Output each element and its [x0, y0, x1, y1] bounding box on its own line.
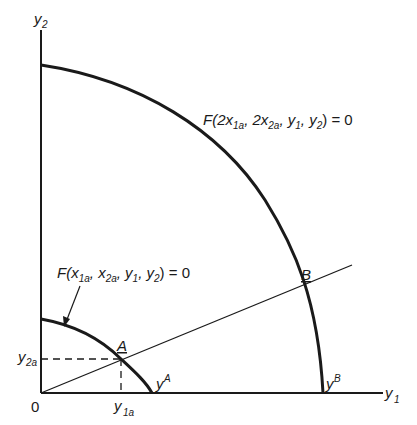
- outer-curve-equation: F(2x1a, 2x2a, y1, y2) = 0: [203, 111, 353, 131]
- origin-label: 0: [31, 398, 39, 415]
- y1a-label-sub: 1a: [123, 407, 135, 418]
- svg-text:F(x1a, x2a, y1, y2) = 0: F(x1a, x2a, y1, y2) = 0: [57, 264, 190, 284]
- ray-from-origin: [41, 265, 352, 393]
- x-axis-label-sub: 1: [394, 394, 400, 405]
- yA-intercept-sup: A: [163, 373, 171, 384]
- production-possibility-diagram: y 2 y 1 0 y 2a y 1a A B y A y B F(2x1a, …: [0, 0, 417, 425]
- inner-curve-equation: F(x1a, x2a, y1, y2) = 0: [57, 264, 190, 284]
- x-axis-label: y: [384, 384, 394, 401]
- svg-text:F(2x1a, 2x2a, y1, y2) = 0: F(2x1a, 2x2a, y1, y2) = 0: [203, 111, 353, 131]
- arrow-to-inner-curve-icon: [63, 286, 80, 327]
- y1a-label: y: [113, 397, 123, 414]
- yB-intercept-sup: B: [334, 373, 341, 384]
- y2a-label-sub: 2a: [25, 357, 38, 368]
- inner-frontier-curve: [41, 319, 152, 393]
- point-a-label: A: [116, 337, 127, 354]
- point-b-label: B: [301, 266, 311, 283]
- y-axis-label-sub: 2: [41, 19, 48, 30]
